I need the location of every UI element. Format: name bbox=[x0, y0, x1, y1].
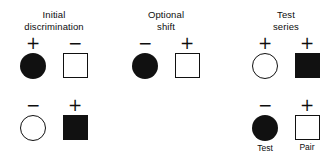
filled-square-icon bbox=[63, 115, 88, 140]
stimulus-row-optional-shift-1: − + bbox=[112, 36, 220, 88]
heading-line-2: shift bbox=[112, 21, 220, 33]
plus-sign: + bbox=[258, 36, 272, 50]
stimulus-cell: − bbox=[12, 98, 54, 143]
plus-sign: + bbox=[180, 36, 194, 50]
heading-line-1: Initial bbox=[0, 9, 108, 21]
stimulus-row-initial-discrimination-1: + − bbox=[0, 36, 108, 88]
minus-sign: − bbox=[258, 98, 272, 112]
minus-sign: − bbox=[26, 98, 40, 112]
plus-sign: + bbox=[26, 36, 40, 50]
heading-line-2: discrimination bbox=[0, 21, 108, 33]
column-optional-shift: Optional shift − + bbox=[112, 0, 220, 156]
stimulus-sequence-diagram: Initial discrimination + − − + bbox=[0, 0, 328, 156]
column-heading-test-series: Test series bbox=[232, 9, 328, 33]
filled-circle-icon bbox=[252, 115, 278, 141]
filled-circle-icon bbox=[20, 53, 46, 79]
stimulus-cell: + bbox=[54, 98, 96, 142]
stimulus-row-test-series-2: − Test + Pair bbox=[232, 98, 328, 150]
stimulus-cell: + bbox=[12, 36, 54, 81]
open-square-icon bbox=[295, 115, 320, 140]
stimulus-row-test-series-1: + + bbox=[232, 36, 328, 88]
minus-sign: − bbox=[138, 36, 152, 50]
stimulus-sublabel-test: Test bbox=[257, 143, 273, 153]
filled-circle-icon bbox=[132, 53, 158, 79]
heading-line-1: Optional bbox=[112, 9, 220, 21]
minus-sign: − bbox=[68, 36, 82, 50]
heading-line-1: Test bbox=[232, 9, 328, 21]
plus-sign: + bbox=[300, 36, 314, 50]
open-circle-icon bbox=[252, 53, 278, 79]
column-test-series: Test series + + − Test + bbox=[232, 0, 328, 156]
stimulus-cell: + Pair bbox=[286, 98, 328, 152]
heading-line-2: series bbox=[232, 21, 328, 33]
open-circle-icon bbox=[20, 115, 46, 141]
column-heading-initial-discrimination: Initial discrimination bbox=[0, 9, 108, 33]
stimulus-cell: + bbox=[166, 36, 208, 80]
stimulus-cell: − bbox=[54, 36, 96, 80]
stimulus-cell: + bbox=[244, 36, 286, 81]
plus-sign: + bbox=[300, 98, 314, 112]
column-initial-discrimination: Initial discrimination + − − + bbox=[0, 0, 108, 156]
stimulus-sublabel-pair: Pair bbox=[299, 142, 314, 152]
stimulus-row-initial-discrimination-2: − + bbox=[0, 98, 108, 150]
filled-square-icon bbox=[295, 53, 320, 78]
open-square-icon bbox=[175, 53, 200, 78]
stimulus-cell: + bbox=[286, 36, 328, 80]
stimulus-cell: − bbox=[124, 36, 166, 81]
stimulus-cell: − Test bbox=[244, 98, 286, 153]
open-square-icon bbox=[63, 53, 88, 78]
column-heading-optional-shift: Optional shift bbox=[112, 9, 220, 33]
plus-sign: + bbox=[68, 98, 82, 112]
